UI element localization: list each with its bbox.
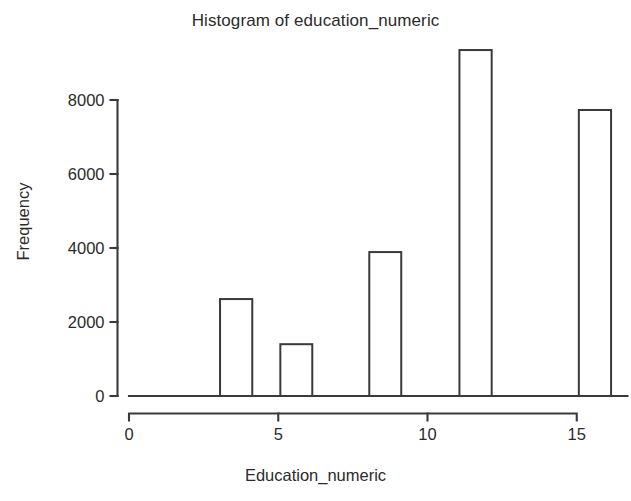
x-tick-label: 5: [274, 425, 283, 443]
y-tick-label: 8000: [68, 91, 105, 109]
histogram-figure: Histogram of education_numeric Frequency…: [0, 0, 631, 501]
histogram-bar: [280, 344, 312, 396]
histogram-bar: [459, 50, 491, 396]
x-tick-label: 10: [418, 425, 436, 443]
plot-area: 02000400060008000 051015: [0, 0, 631, 501]
histogram-bar: [220, 299, 252, 396]
x-axis-spine: [129, 414, 577, 421]
y-tick-label: 6000: [68, 165, 105, 183]
y-tick-label: 4000: [68, 239, 105, 257]
x-tick-label: 15: [568, 425, 586, 443]
histogram-bar: [369, 252, 401, 396]
y-axis: 02000400060008000: [68, 91, 118, 405]
y-tick-label: 2000: [68, 313, 105, 331]
histogram-bar: [579, 110, 611, 396]
histogram-bars: [220, 50, 611, 396]
x-axis: 051015: [124, 414, 586, 443]
y-tick-label: 0: [95, 387, 104, 405]
x-tick-label: 0: [124, 425, 133, 443]
